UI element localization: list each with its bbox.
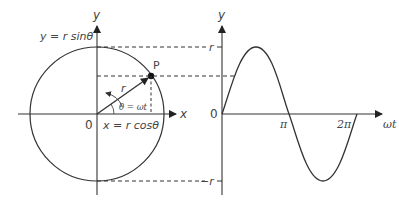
wave-origin-label: 0 [210,107,218,121]
y-projection-label: y = r sinθ [39,30,93,43]
theta-arc [111,104,114,114]
circle-x-axis-label: x [179,107,188,121]
y-min-label: −r [200,175,215,188]
circle-y-axis-label: y [92,8,101,22]
pi-tick-label: π [279,118,288,131]
circle-diagram: y y = r sinθ P r θ = ωt 0 x = r cosθ x [18,8,188,195]
point-p-label: P [153,59,160,72]
wave-x-axis-label: ωt [383,118,397,131]
angle-label: θ = ωt [119,102,148,112]
wave-y-axis-label: y [217,8,226,22]
y-max-label: r [209,41,215,54]
sine-wave-graph: y r 0 π 2π ωt −r [200,8,397,195]
x-projection-label: x = r cosθ [102,119,159,132]
circular-motion-sine-diagram: y y = r sinθ P r θ = ωt 0 x = r cosθ x y… [0,0,399,204]
two-pi-tick-label: 2π [336,118,352,131]
circle-origin-label: 0 [85,118,93,132]
